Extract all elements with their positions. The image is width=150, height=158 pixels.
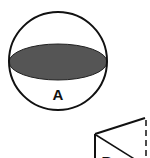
figure-b-cube: B bbox=[95, 118, 146, 158]
figure-a-label: A bbox=[53, 86, 64, 103]
figure-b-label: B bbox=[102, 153, 113, 158]
sphere-cross-section bbox=[9, 44, 107, 80]
cube-top-edge bbox=[95, 118, 145, 134]
figure-a-sphere: A bbox=[9, 12, 107, 110]
geometry-figure: A B bbox=[0, 0, 150, 158]
